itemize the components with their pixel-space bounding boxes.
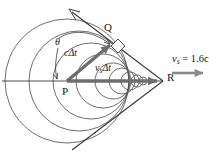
vector-vs-delta-t-label: vsΔt xyxy=(95,63,111,74)
point-r-label: R xyxy=(167,72,174,83)
theta-arc-upper xyxy=(59,32,110,44)
point-p-label: P xyxy=(62,86,68,97)
mach-cone-figure: θ cΔt vsΔt P Q R vs = 1.6c xyxy=(0,0,220,160)
mach-cone-lower-edge xyxy=(72,81,163,150)
speed-value: = 1.6c xyxy=(180,53,209,64)
source-speed-label: vs = 1.6c xyxy=(172,54,209,65)
vector-c-delta-t-label: cΔt xyxy=(64,48,77,58)
vs-dt-tail: Δt xyxy=(102,62,111,73)
point-q-label: Q xyxy=(104,22,112,33)
angle-theta-label: θ xyxy=(55,37,60,47)
